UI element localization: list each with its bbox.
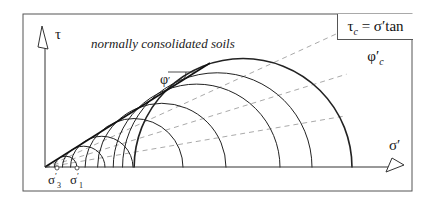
annotation-text: normally consolidated soils xyxy=(91,36,235,52)
formula-box: τc = σ′tan φ′c xyxy=(337,14,413,40)
sigma-arrowhead-icon xyxy=(386,158,404,172)
x-axis-label: σ′ xyxy=(389,137,400,154)
mohr-circle xyxy=(98,103,226,167)
formula-lhs-sub: c xyxy=(353,26,357,37)
sigma1-label: σ′1 xyxy=(70,171,83,190)
sigma3-label: σ′3 xyxy=(48,171,61,190)
sigma1-point xyxy=(75,166,79,170)
angle-label: φ′c xyxy=(160,72,174,90)
tau-arrowhead-icon xyxy=(38,26,48,49)
sigma3-point xyxy=(55,166,59,170)
mohr-circle xyxy=(113,84,280,167)
dashed-line xyxy=(45,74,347,167)
y-axis-label: τ xyxy=(55,26,61,43)
formula-rhs-sub: c xyxy=(379,56,383,67)
failure-envelope xyxy=(45,63,210,167)
